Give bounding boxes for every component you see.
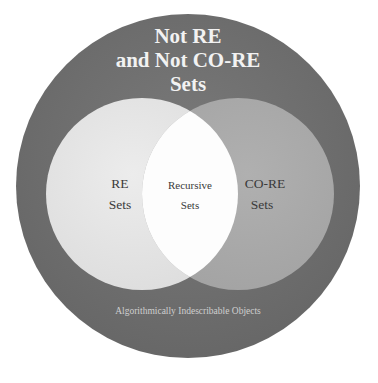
re-sets-label-line-2: Sets — [109, 197, 132, 212]
co-re-sets-label-line-1: CO-RE — [245, 176, 286, 191]
co-re-sets-label-line-2: Sets — [251, 197, 274, 212]
venn-diagram: Not RE and Not CO-RE Sets RE Sets CO-RE … — [0, 0, 378, 383]
title-line-3: Sets — [170, 72, 206, 96]
venn-diagram-canvas: Not RE and Not CO-RE Sets RE Sets CO-RE … — [0, 0, 378, 383]
title-line-2: and Not CO-RE — [116, 48, 261, 72]
footer-caption: Algorithmically Indescribable Objects — [115, 306, 261, 316]
title-line-1: Not RE — [154, 24, 221, 48]
re-sets-label-line-1: RE — [111, 176, 128, 191]
recursive-sets-label-line-1: Recursive — [168, 179, 212, 191]
recursive-sets-label-line-2: Sets — [181, 199, 199, 211]
